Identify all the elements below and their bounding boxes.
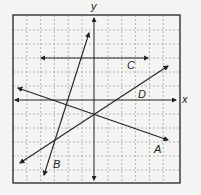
grid [13,15,180,183]
frame [13,15,180,183]
coordinate-plane-diagram: y x C D A B [0,0,201,195]
line-a-label: A [154,144,161,155]
line-b-label: B [53,159,60,170]
x-axis-label: x [182,94,188,105]
graph-canvas [0,0,201,195]
line-c-label: C [127,60,135,71]
line-d-label: D [138,89,146,100]
y-axis-label: y [91,1,97,12]
